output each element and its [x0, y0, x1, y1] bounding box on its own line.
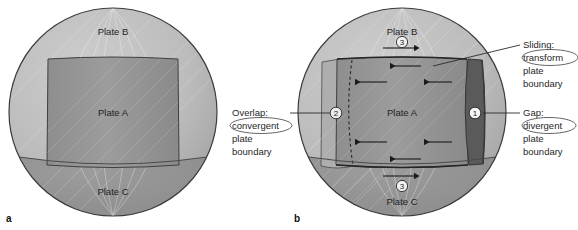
marker-3-south[interactable]: 3 — [396, 180, 407, 191]
panel-b-letter: b — [294, 213, 300, 224]
marker-3-north-label: 3 — [400, 38, 405, 47]
marker-2-label: 2 — [334, 109, 339, 118]
panel-a-letter: a — [6, 213, 12, 224]
plate-b-label-b: Plate B — [387, 26, 418, 37]
figure-canvas: Plate B Plate A Plate C a — [0, 0, 578, 230]
annotation-gap-line-1: Gap: — [523, 107, 544, 118]
plate-a-label-b: Plate A — [387, 107, 418, 118]
annotation-overlap-line-1: Overlap: — [232, 107, 268, 118]
marker-2-overlap[interactable]: 2 — [330, 107, 342, 119]
annotation-overlap-line-3: plate — [232, 133, 253, 144]
marker-1-label: 1 — [473, 109, 478, 118]
annotation-gap-line-2: divergent — [523, 120, 562, 131]
annotation-sliding-line-2: transform — [523, 52, 563, 63]
marker-1-gap[interactable]: 1 — [469, 107, 481, 119]
annotation-sliding-line-4: boundary — [523, 78, 563, 89]
marker-3-north[interactable]: 3 — [396, 36, 407, 47]
annotation-overlap-line-2: convergent — [232, 120, 279, 131]
plate-boundary-figure: Plate B Plate A Plate C a — [0, 0, 578, 230]
annotation-sliding-line-1: Sliding: — [523, 39, 554, 50]
annotation-gap-line-3: plate — [523, 133, 544, 144]
plate-b-label-a: Plate B — [98, 26, 129, 37]
plate-c-label-b: Plate C — [386, 196, 417, 207]
annotation-overlap-line-4: boundary — [232, 146, 272, 157]
annotation-gap-line-4: boundary — [523, 146, 563, 157]
annotation-sliding-line-3: plate — [523, 65, 544, 76]
plate-a-label-a: Plate A — [98, 107, 129, 118]
marker-3-south-label: 3 — [400, 182, 405, 191]
plate-c-label-a: Plate C — [97, 186, 128, 197]
